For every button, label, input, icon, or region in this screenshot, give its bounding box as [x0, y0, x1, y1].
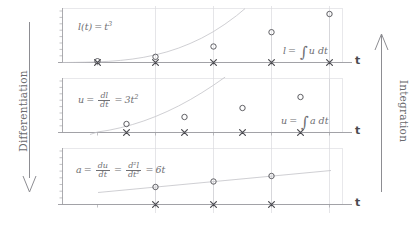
formula-lhs: l(t) — [78, 21, 92, 32]
differential: dt — [319, 115, 329, 126]
integral-sign: ∫ — [301, 113, 309, 131]
t-axis-label-2: t — [355, 124, 360, 137]
equals-sign: = — [288, 45, 296, 56]
equals-sign: = — [289, 115, 297, 126]
integral-lhs: u — [281, 115, 287, 126]
fraction-numerator-2: d²l — [126, 162, 142, 170]
t-axis-label-1: t — [355, 54, 360, 67]
diagram-svg — [0, 0, 411, 225]
equals-sign: = — [84, 164, 92, 175]
equals-sign: = — [94, 21, 102, 32]
fraction-denominator: dt — [96, 170, 110, 179]
integrand: a — [310, 115, 316, 126]
equals-sign-2: = — [114, 94, 122, 105]
y-ticks — [60, 151, 63, 198]
formula-acceleration: a=dudt=d²ldt²=6t — [76, 162, 165, 180]
derivative-fraction-2: d²ldt² — [126, 162, 142, 180]
formula-displacement: l(t)=t3 — [78, 21, 112, 32]
fraction-denominator-2: dt² — [126, 170, 142, 179]
equals-sign-3: = — [145, 164, 153, 175]
fraction-numerator: dl — [98, 92, 110, 100]
integrand: u — [309, 45, 315, 56]
formula-rhs-base: t — [161, 164, 165, 175]
formula-lhs: a — [76, 164, 82, 175]
figure-canvas: Differentiation Integration l(t)=t3 l=∫u… — [0, 0, 411, 225]
integral-lhs: l — [283, 45, 286, 56]
integration-label: Integration — [398, 56, 410, 166]
integral-label-displacement: l=∫udt — [283, 44, 328, 59]
formula-velocity: u=dldt=3t2 — [78, 92, 138, 110]
integral-label-velocity: u=∫adt — [281, 114, 329, 129]
formula-lhs: u — [78, 94, 84, 105]
derivative-fraction: dldt — [98, 92, 110, 110]
derivative-fraction-1: dudt — [96, 162, 110, 180]
fraction-denominator: dt — [98, 100, 110, 109]
formula-rhs-exponent: 2 — [134, 93, 138, 101]
y-ticks — [60, 81, 63, 126]
integral-sign: ∫ — [300, 43, 308, 61]
y-ticks — [60, 11, 63, 56]
differentiation-label: Differentiation — [17, 56, 29, 166]
t-axis-label-3: t — [355, 196, 360, 209]
equals-sign-2: = — [114, 164, 122, 175]
equals-sign: = — [86, 94, 94, 105]
integration-arrow — [375, 34, 388, 192]
differential: dt — [318, 45, 328, 56]
formula-rhs-exponent: 3 — [108, 20, 112, 28]
global-gridlines — [156, 6, 330, 213]
fraction-numerator: du — [96, 162, 110, 170]
